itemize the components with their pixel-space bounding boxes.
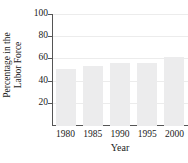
x-axis-tick-label: 1990 <box>106 129 133 139</box>
y-axis-title-line-2: Labor Force <box>13 32 24 97</box>
y-axis-tick-label: 80 <box>26 31 48 41</box>
y-axis-tick <box>48 58 53 59</box>
y-axis-title-line-1: Percentage in the <box>2 32 13 97</box>
gridline <box>53 14 188 15</box>
gridline <box>53 36 188 37</box>
bar <box>164 57 184 126</box>
y-axis-line <box>52 14 53 126</box>
y-axis-tick-label: 60 <box>26 53 48 63</box>
bar <box>110 63 130 126</box>
plot-area: 19801985199019952000 <box>52 14 188 127</box>
x-axis-tick-label: 1995 <box>134 129 161 139</box>
y-axis-tick-label: 20 <box>26 98 48 108</box>
x-axis-title: Year <box>52 142 188 153</box>
x-axis-tick-label: 2000 <box>161 129 188 139</box>
bar <box>83 66 103 126</box>
y-axis-tick <box>48 103 53 104</box>
y-axis-tick <box>48 36 53 37</box>
y-axis-tick <box>48 14 53 15</box>
y-axis-title: Percentage in the Labor Force <box>0 0 26 130</box>
y-axis-tick-label: 100 <box>26 9 48 19</box>
bar <box>137 63 157 126</box>
x-axis-tick-label: 1985 <box>79 129 106 139</box>
x-axis-tick-label: 1980 <box>52 129 79 139</box>
bar-chart-figure: Percentage in the Labor Force 1980198519… <box>0 0 188 163</box>
y-axis-tick-label: 40 <box>26 76 48 86</box>
bar <box>56 69 76 126</box>
y-axis-tick <box>48 81 53 82</box>
